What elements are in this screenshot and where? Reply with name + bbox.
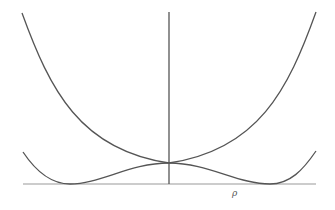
potential-diagram	[0, 0, 335, 210]
rho-axis-label: ρ	[232, 188, 237, 198]
